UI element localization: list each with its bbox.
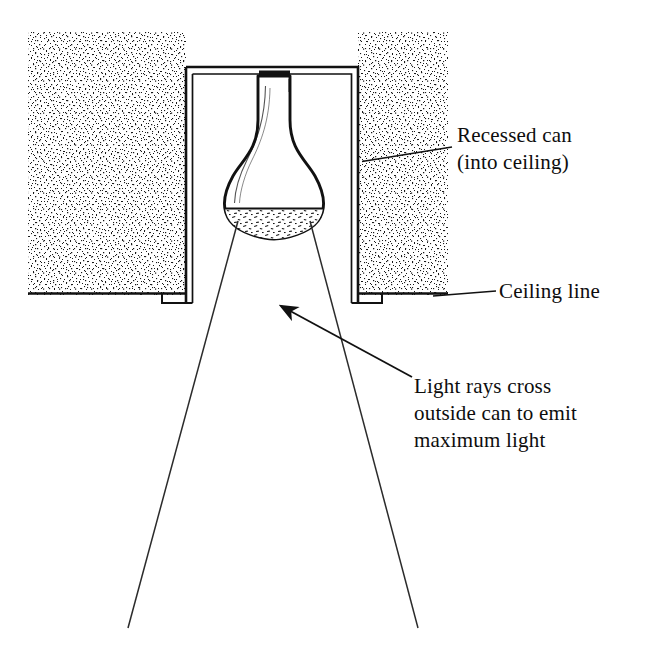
label-light-rays: Light rays cross outside can to emit max… [414,373,577,454]
figure-root: Recessed can (into ceiling) Ceiling line… [0,0,651,656]
label-ceiling-line: Ceiling line [499,278,600,305]
ceiling-slab-right [358,32,448,303]
ceiling-slab-left [28,32,186,303]
label-ceiling-line-line-1: Ceiling line [499,278,600,305]
label-light-rays-line-2: outside can to emit [414,400,577,427]
leader-light-rays-arrow [281,306,412,377]
label-recessed-can-line-1: Recessed can [457,122,572,149]
label-light-rays-line-3: maximum light [414,427,577,454]
label-recessed-can-line-2: (into ceiling) [457,149,572,176]
label-recessed-can: Recessed can (into ceiling) [457,122,572,176]
label-light-rays-line-1: Light rays cross [414,373,577,400]
recessed-can-diagram [0,0,651,656]
